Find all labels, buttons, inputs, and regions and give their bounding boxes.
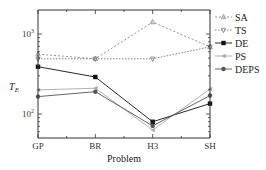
circle-marker-icon (221, 67, 225, 71)
series-ts (36, 45, 212, 61)
triangle-up-marker-icon (221, 14, 225, 18)
circle-marker-icon (150, 124, 154, 128)
legend-item-ps: PS (215, 51, 246, 62)
x-tick-label: BR (89, 141, 101, 151)
series-sa (36, 19, 212, 60)
legend-label: DEPS (235, 64, 259, 75)
series-line (38, 22, 210, 59)
circle-marker-icon (93, 89, 97, 93)
x-tick-label: SH (204, 141, 216, 151)
line-chart: 102103GPBRH3SH SATSDEPSDEPS Problem TE (0, 0, 266, 170)
x-tick-label: GP (32, 141, 44, 151)
triangle-down-marker-icon (150, 57, 154, 61)
series-deps (36, 89, 212, 128)
x-axis-title: Problem (107, 153, 141, 164)
axes: 102103GPBRH3SH (22, 10, 216, 151)
series-line (38, 47, 210, 59)
y-tick-label: 102 (22, 108, 34, 119)
y-tick-exp: 3 (31, 28, 34, 34)
y-tick-label: 103 (22, 28, 34, 39)
triangle-down-marker-icon (221, 28, 225, 32)
legend: SATSDEPSDEPS (215, 12, 259, 75)
y-axis-title-sub: E (14, 86, 20, 94)
legend-label: SA (235, 12, 249, 23)
square-marker-icon (221, 41, 225, 45)
plot-area (36, 19, 212, 132)
y-tick-exp: 2 (31, 108, 34, 114)
legend-item-ts: TS (215, 25, 247, 36)
x-tick-label: H3 (147, 141, 158, 151)
legend-item-deps: DEPS (215, 64, 259, 75)
y-axis-title: TE (9, 81, 20, 94)
legend-item-de: DE (215, 38, 248, 49)
legend-label: DE (235, 38, 248, 49)
legend-item-sa: SA (215, 12, 249, 23)
triangle-left-marker-icon (221, 54, 225, 58)
square-marker-icon (150, 120, 154, 124)
legend-label: PS (235, 51, 246, 62)
square-marker-icon (93, 75, 97, 79)
series-line (38, 92, 210, 126)
triangle-up-marker-icon (150, 19, 154, 23)
legend-label: TS (235, 25, 247, 36)
